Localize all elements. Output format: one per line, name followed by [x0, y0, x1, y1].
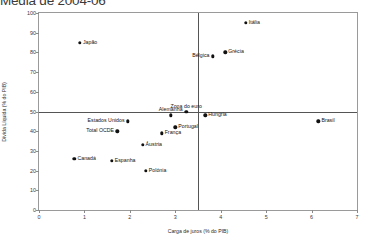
- data-point-label: Hungria: [208, 113, 227, 118]
- data-point[interactable]: [317, 120, 320, 123]
- data-point-label: Japão: [83, 40, 97, 45]
- y-tick-label: 100: [27, 10, 36, 16]
- y-tick-mark: [36, 13, 39, 14]
- data-point-label: França: [165, 130, 181, 135]
- x-tick-label: 7: [356, 214, 359, 220]
- y-tick-mark: [36, 33, 39, 34]
- chart-title: Média de 2004-06: [0, 0, 106, 8]
- data-point[interactable]: [160, 131, 163, 134]
- data-point-label: Estados Unidos: [88, 119, 125, 124]
- data-point[interactable]: [184, 110, 187, 113]
- y-tick-mark: [36, 92, 39, 93]
- data-point-label: Total OCDE: [86, 128, 114, 133]
- data-point-label: Grécia: [228, 50, 244, 55]
- x-tick-label: 6: [310, 214, 313, 220]
- data-point[interactable]: [224, 51, 227, 54]
- x-tick-mark: [39, 210, 40, 213]
- x-tick-mark: [312, 210, 313, 213]
- data-point[interactable]: [73, 157, 76, 160]
- data-point-label: Portugal: [178, 125, 198, 130]
- y-tick-mark: [36, 190, 39, 191]
- x-tick-label: 0: [38, 214, 41, 220]
- x-tick-mark: [221, 210, 222, 213]
- x-tick-mark: [175, 210, 176, 213]
- data-point-label: Espanha: [115, 158, 136, 163]
- y-tick-mark: [36, 72, 39, 73]
- data-point-label: Alemanha: [159, 107, 183, 112]
- x-axis-title: Carga de juros (% do PIB): [168, 228, 229, 234]
- data-point[interactable]: [144, 169, 147, 172]
- x-tick-mark: [84, 210, 85, 213]
- x-tick-label: 1: [83, 214, 86, 220]
- chart-container: Média de 2004-06 Dívida Líquida (% do PI…: [0, 0, 367, 240]
- data-point[interactable]: [204, 114, 207, 117]
- plot-area: 0102030405060708090100 01234567 ItáliaJa…: [38, 12, 358, 211]
- data-point-label: Polónia: [149, 168, 167, 173]
- y-axis-title: Dívida Líquida (% do PIB): [1, 82, 7, 142]
- data-point[interactable]: [141, 143, 144, 146]
- data-point-label: Canadá: [77, 156, 95, 161]
- data-point-label: Áustria: [146, 142, 163, 147]
- data-point[interactable]: [244, 21, 247, 24]
- y-tick-mark: [36, 151, 39, 152]
- data-point[interactable]: [169, 114, 172, 117]
- x-tick-label: 5: [265, 214, 268, 220]
- x-tick-label: 3: [174, 214, 177, 220]
- y-tick-mark: [36, 171, 39, 172]
- reference-line-vertical: [198, 13, 199, 210]
- x-tick-mark: [266, 210, 267, 213]
- y-tick-mark: [36, 131, 39, 132]
- x-tick-mark: [357, 210, 358, 213]
- x-tick-label: 2: [128, 214, 131, 220]
- y-tick-mark: [36, 52, 39, 53]
- y-tick-mark: [36, 112, 39, 113]
- data-point-label: Itália: [249, 20, 260, 25]
- data-point-label: Bélgica: [192, 54, 209, 59]
- data-point[interactable]: [78, 41, 81, 44]
- x-tick-mark: [130, 210, 131, 213]
- data-point[interactable]: [110, 159, 113, 162]
- x-tick-label: 4: [219, 214, 222, 220]
- data-point[interactable]: [174, 126, 177, 129]
- data-point[interactable]: [115, 129, 118, 132]
- data-point-label: Brasil: [321, 119, 334, 124]
- data-point[interactable]: [211, 55, 214, 58]
- data-point[interactable]: [126, 120, 129, 123]
